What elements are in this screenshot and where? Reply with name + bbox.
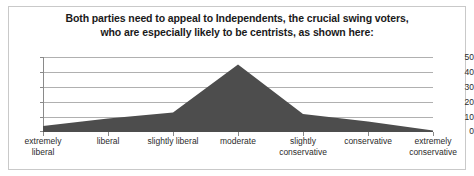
x-label-slightly-liberal: slightly liberal <box>137 136 209 147</box>
x-label-liberal-line-1: liberal <box>72 136 144 147</box>
x-label-moderate-line-1: moderate <box>202 136 274 147</box>
x-label-conservative: conservative <box>332 136 404 147</box>
area-series-polygon <box>43 65 433 133</box>
x-axis-labels: extremely liberal liberal slightly liber… <box>0 136 474 172</box>
x-label-extremely-liberal: extremely liberal <box>7 136 79 158</box>
chart-figure: Both parties need to appeal to Independe… <box>0 0 474 176</box>
x-label-slightly-liberal-line-1: slightly liberal <box>137 136 209 147</box>
x-label-extremely-conservative: extremely conservative <box>397 136 469 158</box>
x-label-moderate: moderate <box>202 136 274 147</box>
x-label-liberal: liberal <box>72 136 144 147</box>
plot-wrapper: 50 40 30 20 10 0 <box>0 0 474 176</box>
x-label-conservative-line-1: conservative <box>332 136 404 147</box>
x-label-extremely-liberal-line-2: liberal <box>7 147 79 158</box>
x-label-slightly-conservative-line-1: slightly <box>267 136 339 147</box>
x-label-extremely-conservative-line-2: conservative <box>397 147 469 158</box>
x-label-slightly-conservative-line-2: conservative <box>267 147 339 158</box>
x-label-slightly-conservative: slightly conservative <box>267 136 339 158</box>
x-label-extremely-conservative-line-1: extremely <box>397 136 469 147</box>
x-label-extremely-liberal-line-1: extremely <box>7 136 79 147</box>
